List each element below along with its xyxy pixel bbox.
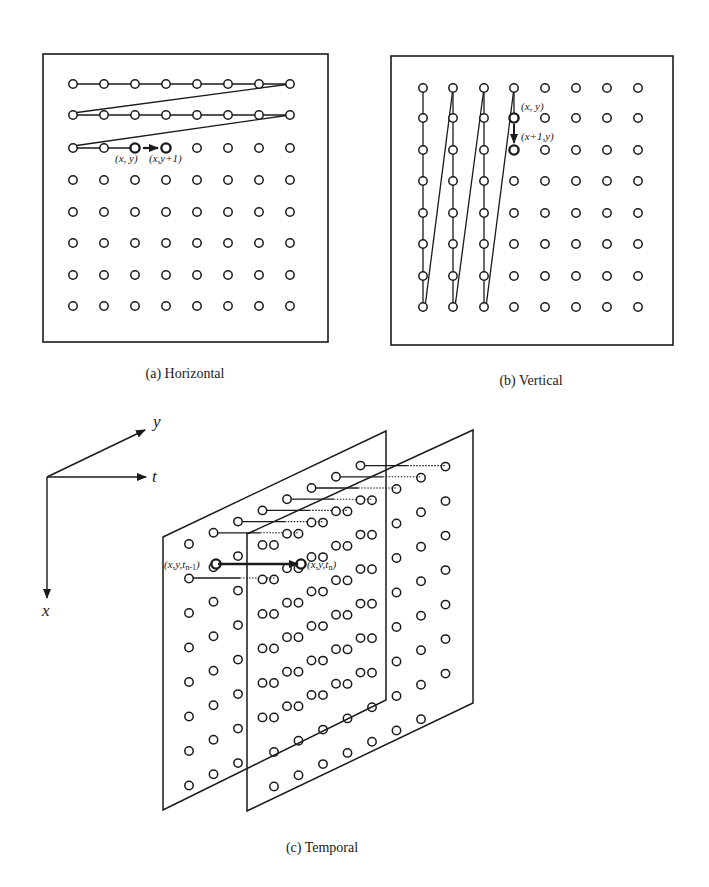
pixel-dot [417, 681, 425, 689]
pixel-dot [294, 530, 302, 538]
pixel-dot [441, 566, 449, 574]
pixel-dot [270, 610, 278, 618]
pixel-dot [193, 239, 201, 247]
pixel-dot [480, 177, 488, 185]
pixel-dot [258, 506, 266, 514]
pixel-dot [209, 701, 217, 709]
pixel-dot [343, 749, 351, 757]
pixel-dot [131, 239, 139, 247]
pixel-dot [193, 80, 201, 88]
pixel-dot [100, 144, 108, 152]
pixel-dot [392, 519, 400, 527]
pixel-dot [572, 177, 580, 185]
pixel-dot [193, 144, 201, 152]
pixel-dot [270, 782, 278, 790]
pixel-dot [234, 517, 242, 525]
pixel-dot [480, 240, 488, 248]
pixel-dot [283, 633, 291, 641]
pixel-dot [100, 208, 108, 216]
pixel-dot [100, 176, 108, 184]
pixel-dot [510, 240, 518, 248]
pixel-dot [572, 146, 580, 154]
pixel-dot [417, 612, 425, 620]
pixel-dot [480, 272, 488, 280]
pixel-dot [419, 240, 427, 248]
pixel-dot [480, 209, 488, 217]
pixel-dot [419, 84, 427, 92]
pixel-dot [509, 145, 518, 154]
pixel-dot [286, 302, 294, 310]
pixel-dot [392, 485, 400, 493]
pixel-dot [368, 738, 376, 746]
pixel-dot [392, 726, 400, 734]
vertical-current-label: (x, y) [521, 100, 544, 113]
pixel-dot [258, 644, 266, 652]
pixel-dot [392, 588, 400, 596]
pixel-dot [603, 272, 611, 280]
pixel-dot [419, 303, 427, 311]
pixel-dot [634, 114, 642, 122]
pixel-dot [255, 208, 263, 216]
pixel-dot [634, 84, 642, 92]
pixel-dot [69, 80, 77, 88]
pixel-dot [234, 690, 242, 698]
pixel-dot [449, 303, 457, 311]
pixel-dot [283, 530, 291, 538]
pixel-dot [419, 177, 427, 185]
pixel-dot [286, 208, 294, 216]
pixel-dot [258, 541, 266, 549]
pixel-dot [510, 272, 518, 280]
pixel-dot [286, 111, 294, 119]
pixel-dot [131, 176, 139, 184]
pixel-dot [332, 542, 340, 550]
pixel-dot [286, 144, 294, 152]
pixel-dot [510, 84, 518, 92]
pixel-dot [441, 462, 449, 470]
pixel-dot [356, 565, 364, 573]
pixel-dot [185, 747, 193, 755]
pixel-dot [286, 239, 294, 247]
panel-temporal: y t x (x,y,tn-1) (x,y,tn) (c) Temporal [41, 412, 473, 856]
pixel-dot [441, 669, 449, 677]
pixel-dot [343, 542, 351, 550]
temporal-current-label: (x,y,tn) [307, 558, 336, 572]
pixel-dot [234, 724, 242, 732]
pixel-dot [634, 177, 642, 185]
pixel-dot [449, 240, 457, 248]
pixel-dot [131, 208, 139, 216]
pixel-dot [343, 611, 351, 619]
pixel-dot [185, 609, 193, 617]
pixel-dot [294, 599, 302, 607]
pixel-dot [224, 176, 232, 184]
pixel-dot [509, 113, 518, 122]
pixel-dot [480, 114, 488, 122]
pixel-dot [234, 655, 242, 663]
pixel-dot [480, 84, 488, 92]
pixel-dot [307, 587, 315, 595]
pixel-dot [417, 543, 425, 551]
pixel-dot [209, 770, 217, 778]
scan-order-figure: (x, y) (x,y+1) (a) Horizontal (x, y) (x+… [0, 0, 709, 887]
pixel-dot [368, 531, 376, 539]
caption-temporal: (c) Temporal [286, 840, 358, 856]
pixel-dot [193, 176, 201, 184]
pixel-dot [69, 144, 77, 152]
pixel-dot [603, 177, 611, 185]
pixel-dot [368, 496, 376, 504]
pixel-dot [131, 111, 139, 119]
pixel-dot [634, 146, 642, 154]
pixel-dot [209, 598, 217, 606]
pixel-dot [419, 114, 427, 122]
pixel-dot [270, 644, 278, 652]
pixel-dot [368, 669, 376, 677]
pixel-dot [209, 667, 217, 675]
pixel-dot [343, 576, 351, 584]
pixel-dot [270, 575, 278, 583]
pixel-dot [255, 302, 263, 310]
pixel-dot [541, 146, 549, 154]
pixel-dot [603, 209, 611, 217]
pixel-dot [209, 736, 217, 744]
vertical-scan-path [423, 88, 514, 307]
pixel-dot [283, 599, 291, 607]
frame-tn-plane [247, 430, 473, 811]
